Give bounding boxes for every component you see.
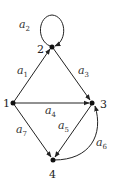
node-2: [50, 45, 55, 50]
directed-graph-diagram: 1 2 3 4 a2 a1 a3 a4 a5 a7 a6: [0, 0, 116, 183]
edge-label-a2: a2: [19, 18, 30, 33]
edge-label-a1: a1: [17, 64, 28, 79]
node-4: [51, 158, 56, 163]
edge-a2-self-loop: [40, 15, 63, 46]
node-1: [11, 101, 16, 106]
edge-label-a3: a3: [78, 64, 89, 79]
edge-a6-curved: [54, 106, 98, 160]
node-label-2: 2: [37, 43, 44, 56]
node-label-3: 3: [100, 98, 107, 111]
node-3: [90, 101, 95, 106]
edge-label-a5: a5: [58, 119, 69, 134]
edge-label-a7: a7: [16, 123, 27, 138]
node-label-1: 1: [3, 97, 10, 110]
edge-label-a6: a6: [96, 136, 108, 151]
node-label-4: 4: [49, 168, 56, 181]
edge-label-a4: a4: [45, 104, 57, 119]
